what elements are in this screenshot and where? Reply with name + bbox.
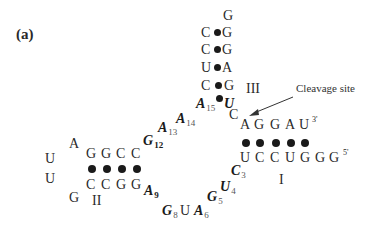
stem-II-bottom: G [116,178,126,192]
loop-II-nucleotide: A [69,137,79,151]
stem-II-bottom: C [86,178,95,192]
cleavage-nucleotide-C: C [229,108,238,122]
stem-I-top: G [254,118,264,132]
stem-I-bottom: G [329,151,339,165]
nucleotide-G5: G5 [207,190,223,208]
stem-II-bottom: G [131,178,141,192]
nucleotide-A14: A14 [176,112,195,130]
stem-I-bottom: G [315,151,325,165]
stem-I-bottom: G [300,151,310,165]
base-pair-dot [256,139,264,147]
stem-I-bottom: C [255,151,264,165]
stem-I-top: U [299,118,309,132]
stem-II-top: G [86,147,96,161]
nucleotide-A6: A6 [194,204,209,222]
base-pair-dot [88,165,96,173]
stem-I-label: I [279,173,284,187]
three-prime-end: 3' [312,113,317,127]
nucleotide-A9: A9 [144,184,159,202]
stem-II-top: G [101,147,111,161]
stem-I-bottom: U [285,151,295,165]
stem-I-top: A [285,118,295,132]
loop-II-nucleotide: U [45,152,55,166]
base-pair-dot [272,139,280,147]
stem-I-bottom: C [270,151,279,165]
loop-II-nucleotide: U [45,172,55,186]
stem-II-top: C [131,147,140,161]
nucleotide-G8: G8 [162,204,178,222]
base-pair-dot [287,139,295,147]
base-pair-dot [118,165,126,173]
loop-II-nucleotide: G [69,191,79,205]
stem-II-label: II [92,194,101,208]
base-pair-dot [103,165,111,173]
base-pair-dot [133,165,141,173]
base-pair-dot [242,139,250,147]
five-prime-end: 5' [343,146,348,160]
base-pair-dot [301,139,309,147]
stem-I-top: G [270,118,280,132]
nucleotide-U7: U [180,204,190,218]
nucleotide-A13: A13 [158,121,177,139]
stem-II-bottom: C [101,178,110,192]
stem-I-top: A [240,118,250,132]
stem-II-top: C [116,147,125,161]
stem-I-bottom: U [240,151,250,165]
